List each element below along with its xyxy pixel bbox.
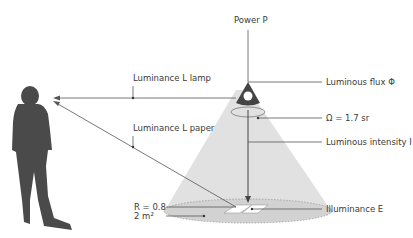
luminous-intensity-label: Luminous intensity I <box>326 138 412 147</box>
solid-angle-label: Ω = 1.7 sr <box>326 114 369 123</box>
illuminance-label: Illuminance E <box>326 205 383 214</box>
person-silhouette-icon <box>12 86 72 230</box>
area-label: 2 m² <box>134 212 154 221</box>
bulb-icon <box>244 92 253 101</box>
luminance-lamp-label: Luminance L lamp <box>133 74 211 83</box>
luminance-paper-label: Luminance L paper <box>133 124 214 133</box>
power-label: Power P <box>234 16 268 25</box>
luminous-flux-label: Luminous flux Φ <box>326 78 395 87</box>
